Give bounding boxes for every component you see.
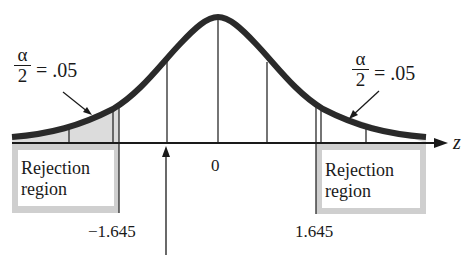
right-rejection-line2: region: [325, 181, 394, 202]
right-fraction-numerator: α: [352, 50, 369, 68]
left-alpha-fraction: α 2: [14, 46, 31, 85]
left-alpha-value: = .05: [36, 59, 77, 82]
left-fraction-denominator: 2: [14, 67, 31, 85]
left-alpha-arrowhead: [83, 107, 92, 115]
left-rejection-line1: Rejection: [21, 158, 90, 179]
normal-distribution-diagram: [0, 0, 468, 260]
pointer-arrowhead: [162, 146, 170, 157]
right-alpha-fraction: α 2: [352, 50, 369, 89]
right-alpha-arrow: [353, 91, 379, 115]
left-rejection-line2: region: [21, 179, 90, 200]
left-rejection-label: Rejection region: [21, 158, 90, 200]
center-tick-label: 0: [211, 156, 220, 176]
right-fraction-denominator: 2: [352, 71, 369, 89]
right-rejection-label: Rejection region: [325, 160, 394, 202]
left-critical-value: −1.645: [88, 222, 136, 242]
left-fraction-numerator: α: [14, 46, 31, 64]
right-alpha-value: = .05: [374, 62, 415, 85]
z-axis-arrowhead: [434, 138, 448, 148]
right-rejection-line1: Rejection: [325, 160, 394, 181]
z-axis-label: z: [453, 131, 461, 154]
right-critical-value: 1.645: [295, 222, 333, 242]
left-alpha-arrow: [63, 92, 88, 112]
